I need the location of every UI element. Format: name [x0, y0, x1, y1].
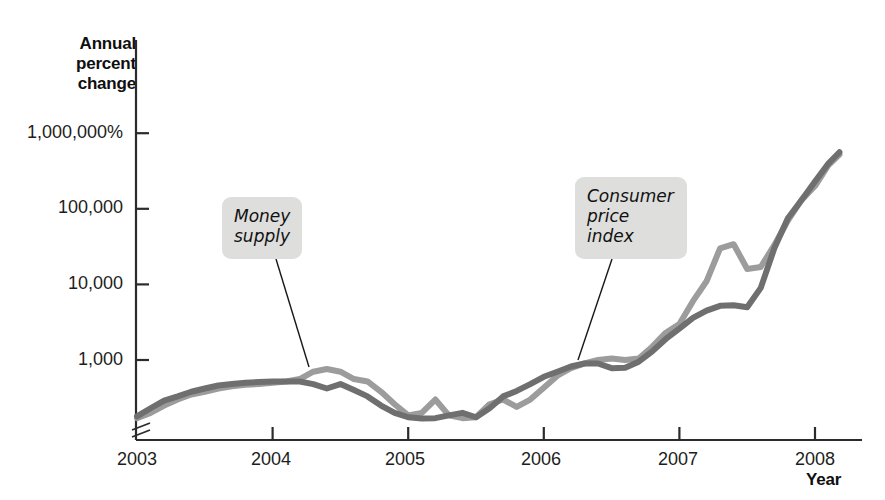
- leader-line-consumer-price-index: [578, 259, 612, 360]
- data-series-layer: [137, 152, 839, 418]
- series-line-consumer-price-index: [137, 152, 839, 418]
- axis-break-mark-upper: [132, 423, 150, 430]
- axis-break-mark-lower: [132, 430, 150, 437]
- callout-leader-lines: [276, 259, 612, 367]
- y-axis-ticks: [136, 133, 149, 360]
- callout-cpi-line-3: index: [587, 226, 675, 246]
- series-line-money-supply: [137, 155, 839, 419]
- callout-cpi-line-2: price: [587, 206, 675, 226]
- callout-consumer-price-index: Consumer price index: [575, 177, 687, 259]
- leader-line-money-supply: [276, 259, 309, 367]
- callout-money-supply-line-2: supply: [234, 226, 290, 246]
- callout-money-supply-line-1: Money: [234, 206, 290, 226]
- chart-figure: Annual percent change Year 1,000,000% 10…: [0, 0, 885, 500]
- x-axis-ticks: [273, 427, 815, 440]
- plot-area: [0, 0, 885, 500]
- callout-cpi-line-1: Consumer: [587, 186, 675, 206]
- callout-money-supply: Money supply: [222, 197, 302, 259]
